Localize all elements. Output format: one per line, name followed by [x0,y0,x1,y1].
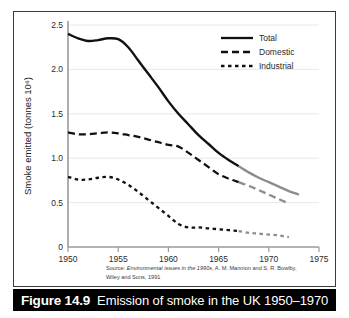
x-tick-1955: 1955 [109,254,128,264]
y-tick-2-0: 2.0 [51,64,63,74]
y-tick-0: 0 [58,242,63,252]
legend-entry-domestic: Domestic [221,47,295,57]
chart-legend: Total Domestic Industrial [221,33,295,71]
x-axis-tick-labels: 1950 1955 1960 1965 1970 1975 [59,254,329,264]
legend-label-total: Total [259,33,277,43]
x-tick-1960: 1960 [159,254,178,264]
y-tick-1-0: 1.0 [51,153,63,163]
smoke-emission-line-chart: 0 0.5 1.0 1.5 2.0 2.5 1950 1955 1960 196… [13,11,336,287]
series-line-domestic-observed [68,132,239,182]
y-tick-1-5: 1.5 [51,109,63,119]
series-line-total-projected [239,166,299,194]
x-tick-1970: 1970 [259,254,278,264]
x-tick-1965: 1965 [209,254,228,264]
figure-caption-bar: Figure 14.9 Emission of smoke in the UK … [13,289,336,311]
caption-title: Emission of smoke in the UK 1950–1970 [97,293,328,308]
caption-number: Figure 14.9 [21,293,90,308]
y-tick-2-5: 2.5 [51,20,63,30]
legend-entry-total: Total [221,33,277,43]
x-tick-1950: 1950 [59,254,78,264]
source-line-2: Wiley and Sons, 1991 [106,274,160,280]
x-tick-1975: 1975 [310,254,329,264]
series-line-industrial-observed [68,177,239,231]
series-line-industrial-projected [239,231,289,237]
series-line-domestic-projected [239,182,289,203]
y-axis-tick-labels: 0 0.5 1.0 1.5 2.0 2.5 [51,20,63,252]
y-axis-title: Smoke emitted (tonnes 10⁶) [22,77,33,195]
y-tick-0-5: 0.5 [51,198,63,208]
source-line-1: Source: Environmental issues in the 1990… [106,265,297,271]
figure-container: 0 0.5 1.0 1.5 2.0 2.5 1950 1955 1960 196… [0,0,349,318]
legend-label-industrial: Industrial [259,61,294,71]
source-note: Source: Environmental issues in the 1990… [106,265,297,280]
legend-label-domestic: Domestic [259,47,295,57]
series-line-total-observed [68,34,239,166]
